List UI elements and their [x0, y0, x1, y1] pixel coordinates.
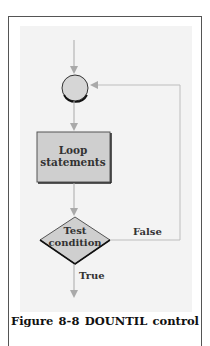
test-condition-label-line2: condition [40, 237, 110, 249]
test-condition-label-line1: Test [40, 225, 110, 237]
figure-caption: Figure 8-8 DOUNTIL control [8, 314, 202, 328]
caption-word-control: control [153, 314, 199, 328]
loop-statements-label-line2: statements [36, 156, 110, 168]
loop-statements-label: Loop statements [36, 144, 110, 168]
loop-statements-label-line1: Loop [36, 144, 110, 156]
caption-word-number: 8-8 [59, 314, 80, 328]
true-branch-label: True [79, 270, 105, 282]
connector-circle [62, 75, 88, 102]
test-condition-label: Test condition [40, 225, 110, 248]
caption-word-figure: Figure [11, 314, 53, 328]
caption-word-dountil: DOUNTIL [85, 314, 148, 328]
false-branch-label: False [133, 226, 162, 238]
